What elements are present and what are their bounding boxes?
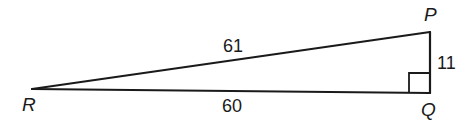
vertex-label-q: Q — [421, 99, 436, 120]
side-length-rq: 60 — [222, 96, 242, 116]
vertex-label-r: R — [22, 94, 36, 115]
right-triangle-diagram: P Q R 61 60 11 — [0, 0, 470, 123]
side-rq-base — [32, 89, 430, 93]
side-length-rp: 61 — [223, 36, 243, 56]
right-angle-marker — [409, 73, 430, 93]
side-length-pq: 11 — [437, 53, 456, 73]
vertex-label-p: P — [424, 4, 437, 25]
